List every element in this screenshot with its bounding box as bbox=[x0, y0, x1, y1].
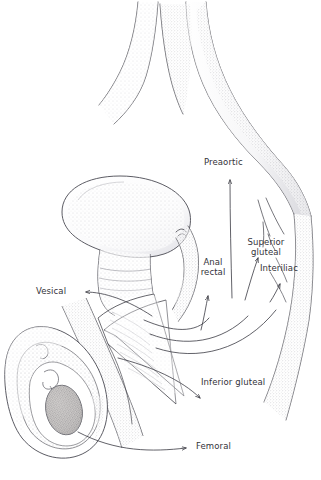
label-femoral: Femoral bbox=[196, 442, 231, 452]
leader-anal-rectal bbox=[201, 296, 208, 330]
label-inferior-gluteal: Inferior gluteal bbox=[201, 378, 265, 388]
iliac-vessel-stipple bbox=[196, 2, 311, 216]
aortic-wedge-shading bbox=[160, 4, 192, 114]
label-vesical: Vesical bbox=[36, 287, 66, 297]
leader-preaortic bbox=[230, 180, 232, 298]
label-anal-rectal: Anal rectal bbox=[196, 258, 230, 278]
label-preaortic: Preaortic bbox=[204, 158, 243, 168]
leader-superior-gluteal bbox=[245, 258, 258, 300]
bladder-structure bbox=[62, 176, 190, 257]
left-iliac-shading bbox=[99, 2, 158, 124]
label-superior-gluteal: Superior gluteal bbox=[240, 238, 292, 258]
anatomical-figure: Preaortic Superior gluteal Interiliac An… bbox=[0, 0, 321, 480]
label-interiliac: Interiliac bbox=[260, 264, 298, 274]
leader-interiliac bbox=[270, 284, 280, 302]
